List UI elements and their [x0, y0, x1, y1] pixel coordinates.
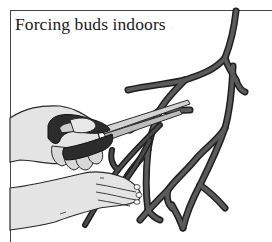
- hand-holding-branch: [10, 172, 142, 230]
